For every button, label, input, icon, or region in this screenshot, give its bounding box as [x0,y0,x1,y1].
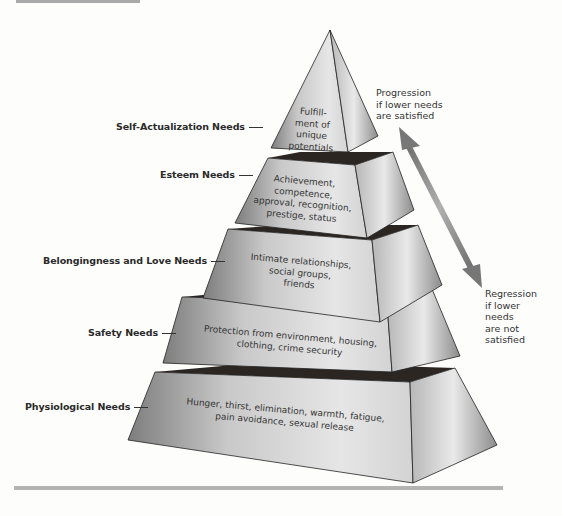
desc-esteem: Achievement, competence, approval, recog… [246,171,360,226]
label-self-actualization: Self-Actualization Needs [116,121,263,132]
label-esteem: Esteem Needs [160,169,253,180]
label-safety: Safety Needs [88,327,176,338]
label-belongingness: Belongingness and Love Needs [43,255,225,266]
bottom-rule [14,486,503,490]
regression-note: Regression if lower needs are not satisf… [485,288,537,346]
maslow-diagram: Self-Actualization Needs Esteem Needs Be… [0,0,562,516]
label-physiological: Physiological Needs [25,401,148,412]
progression-note: Progression if lower needs are satisfied [376,87,443,122]
desc-self-actualization: Fulfill- ment of unique potentials [275,105,348,156]
